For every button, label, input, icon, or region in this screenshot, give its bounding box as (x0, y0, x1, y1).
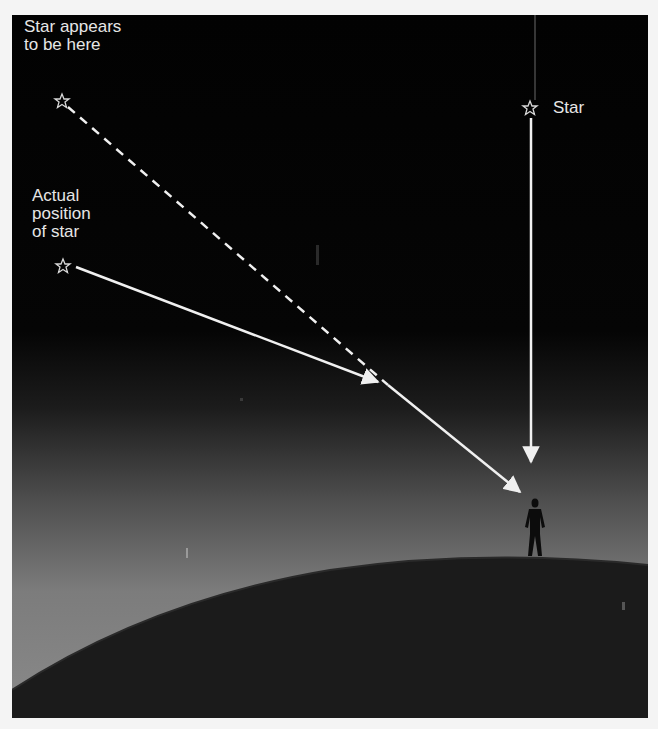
apparent-ray (68, 107, 388, 385)
speck (622, 602, 625, 610)
star-icon (55, 94, 69, 108)
star-label: Star (553, 99, 584, 117)
label-line: to be here (24, 36, 121, 54)
label-line: Star appears (24, 18, 121, 36)
star-icon (523, 101, 537, 115)
observer-icon (525, 499, 545, 557)
label-line: Actual (32, 187, 91, 205)
label-line: of star (32, 223, 91, 241)
speck (186, 548, 188, 558)
speck (316, 245, 319, 265)
label-line: position (32, 205, 91, 223)
refracted-ray (388, 385, 520, 492)
incoming-ray (76, 267, 378, 382)
refraction-diagram: Star appears to be here Actual position … (12, 15, 648, 718)
star-icon (56, 259, 70, 273)
diagram-graphics (12, 15, 648, 718)
apparent-position-label: Star appears to be here (24, 18, 121, 54)
actual-position-label: Actual position of star (32, 187, 91, 241)
speck (240, 398, 243, 401)
